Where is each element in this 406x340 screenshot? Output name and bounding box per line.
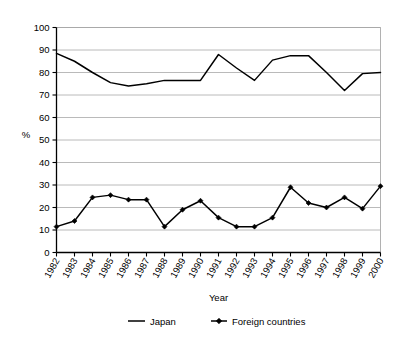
- x-tick-label-1997: 1997: [312, 256, 332, 280]
- x-axis-title: Year: [209, 292, 228, 303]
- x-tick-label-1992: 1992: [222, 256, 242, 280]
- x-tick-label-1998: 1998: [330, 256, 350, 280]
- x-tick-label-1995: 1995: [276, 256, 296, 280]
- y-tick-label-0: 0: [44, 247, 49, 258]
- x-tick-label-1983: 1983: [60, 256, 80, 280]
- legend: JapanForeign countries: [128, 316, 306, 327]
- legend-label-foreign-countries: Foreign countries: [232, 316, 306, 327]
- y-tick-label-50: 50: [39, 134, 50, 145]
- y-tick-label-10: 10: [39, 224, 50, 235]
- x-tick-label-1988: 1988: [150, 256, 170, 280]
- x-tick-label-1991: 1991: [204, 256, 224, 280]
- y-axis-title: %: [22, 129, 31, 140]
- x-tick-label-1985: 1985: [96, 256, 116, 280]
- x-tick-label-1989: 1989: [168, 256, 188, 280]
- line-chart: 0102030405060708090100%19821983198419851…: [0, 0, 406, 340]
- x-tick-label-1996: 1996: [294, 256, 314, 280]
- y-tick-label-100: 100: [34, 22, 50, 33]
- x-tick-label-1999: 1999: [348, 256, 368, 280]
- x-tick-label-2000: 2000: [366, 256, 386, 280]
- y-tick-label-60: 60: [39, 112, 50, 123]
- x-tick-label-1994: 1994: [258, 256, 278, 280]
- x-tick-label-1993: 1993: [240, 256, 260, 280]
- y-tick-label-70: 70: [39, 89, 50, 100]
- x-axis-ticks: 1982198319841985198619871988198919901991…: [42, 253, 386, 280]
- chart-container: 0102030405060708090100%19821983198419851…: [0, 0, 406, 340]
- y-axis-ticks: 0102030405060708090100: [34, 22, 57, 258]
- y-tick-label-30: 30: [39, 179, 50, 190]
- x-tick-label-1990: 1990: [186, 256, 206, 280]
- y-tick-label-90: 90: [39, 44, 50, 55]
- x-tick-label-1984: 1984: [78, 256, 98, 280]
- y-tick-label-80: 80: [39, 67, 50, 78]
- legend-label-japan: Japan: [150, 316, 176, 327]
- legend-marker-diamond-foreign-countries: [216, 318, 222, 324]
- x-tick-label-1987: 1987: [132, 256, 152, 280]
- x-tick-label-1982: 1982: [42, 256, 62, 280]
- x-tick-label-1986: 1986: [114, 256, 134, 280]
- y-tick-label-20: 20: [39, 202, 50, 213]
- y-tick-label-40: 40: [39, 157, 50, 168]
